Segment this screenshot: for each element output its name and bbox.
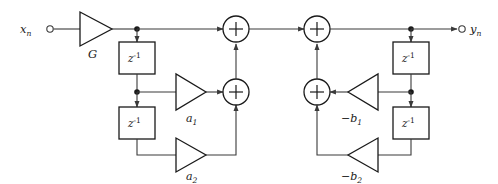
gain-G-triangle[interactable]	[80, 12, 112, 46]
output-port[interactable]	[459, 26, 465, 32]
input-label: xn	[20, 22, 32, 38]
gain-a1-label: a1	[186, 112, 197, 127]
gain-G-label: G	[88, 47, 97, 61]
wire-delay-ff-2-to-gain-a2	[137, 139, 176, 155]
wire-gain-a2-to-adder-mid-left	[206, 105, 236, 155]
signal-flow-diagram: xn G z-1 a1 z-1	[0, 0, 498, 184]
gain-b2-label: −b2	[341, 170, 362, 184]
gain-b2-triangle[interactable]	[348, 138, 378, 172]
wire-delay-fb-2-to-gain-b2	[378, 139, 411, 155]
gain-b1-triangle[interactable]	[348, 74, 378, 110]
output-label: yn	[469, 22, 482, 38]
gain-b1-label: −b1	[341, 112, 362, 127]
gain-a2-label: a2	[186, 170, 198, 184]
gain-a1-triangle[interactable]	[176, 74, 206, 110]
gain-a2-triangle[interactable]	[176, 138, 206, 172]
input-port[interactable]	[47, 26, 53, 32]
flow-graph-canvas: xn G z-1 a1 z-1	[0, 0, 498, 184]
